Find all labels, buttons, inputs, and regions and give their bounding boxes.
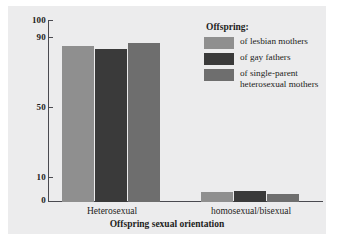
y-tick-mark-100 bbox=[48, 20, 53, 21]
x-category-label-homosexual-bisexual: homosexual/bisexual bbox=[186, 206, 316, 216]
y-tick-mark-10 bbox=[48, 177, 53, 178]
chart-legend: Offspring: of lesbian mothers of gay fat… bbox=[204, 22, 326, 93]
legend-swatch-gay-fathers bbox=[204, 53, 234, 65]
bar-single-parent-heterosexual-mothers-heterosexual bbox=[128, 43, 160, 202]
bar-single-parent-heterosexual-mothers-homosexual-bisexual bbox=[267, 194, 299, 202]
y-axis-line bbox=[48, 20, 49, 202]
x-axis-title: Offspring sexual orientation bbox=[8, 219, 326, 229]
y-tick-mark-90 bbox=[48, 37, 53, 38]
legend-label-gay-fathers: of gay fathers bbox=[240, 52, 291, 63]
bar-gay-fathers-heterosexual bbox=[95, 49, 127, 202]
legend-swatch-lesbian-mothers bbox=[204, 37, 234, 49]
legend-title: Offspring: bbox=[204, 22, 326, 32]
bar-group-heterosexual bbox=[62, 20, 162, 202]
bar-gay-fathers-homosexual-bisexual bbox=[234, 191, 266, 202]
bar-lesbian-mothers-heterosexual bbox=[62, 46, 94, 202]
legend-item-gay-fathers: of gay fathers bbox=[204, 52, 326, 65]
y-tick-label-0: 0 bbox=[41, 195, 46, 205]
y-tick-label-90: 90 bbox=[37, 32, 46, 42]
y-tick-label-10: 10 bbox=[37, 172, 46, 182]
legend-label-lesbian-mothers: of lesbian mothers bbox=[240, 36, 308, 47]
legend-label-single-parent-heterosexual-mothers: of single-parent heterosexual mothers bbox=[240, 68, 326, 90]
legend-item-lesbian-mothers: of lesbian mothers bbox=[204, 36, 326, 49]
y-axis-ticks: 100 90 50 10 0 bbox=[8, 6, 46, 216]
y-tick-mark-50 bbox=[48, 107, 53, 108]
chart-figure: 100 90 50 10 0 Heterosexual homosexual/b… bbox=[8, 6, 326, 234]
legend-item-single-parent-heterosexual-mothers: of single-parent heterosexual mothers bbox=[204, 68, 326, 90]
bar-lesbian-mothers-homosexual-bisexual bbox=[201, 192, 233, 202]
x-category-label-heterosexual: Heterosexual bbox=[62, 206, 162, 216]
y-tick-label-50: 50 bbox=[37, 102, 46, 112]
legend-swatch-single-parent-heterosexual-mothers bbox=[204, 69, 234, 81]
y-tick-label-100: 100 bbox=[32, 15, 46, 25]
